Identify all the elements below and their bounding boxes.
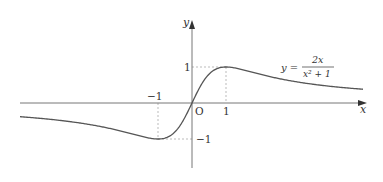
equation-denominator: x² + 1 — [303, 69, 331, 79]
x-axis-label: x — [360, 103, 367, 116]
y-axis-arrow-icon — [189, 20, 195, 29]
y-tick-label-1: 1 — [184, 61, 191, 73]
y-tick-label-neg1: −1 — [196, 133, 211, 145]
equation-label: y = 2x x² + 1 — [280, 54, 334, 79]
x-tick-label-neg1: −1 — [147, 90, 162, 102]
x-tick-label-1: 1 — [223, 105, 230, 117]
function-graph: y x O −1 1 1 −1 y = 2x x² + 1 — [0, 0, 383, 182]
origin-label: O — [195, 105, 204, 117]
y-axis-label: y — [182, 16, 190, 29]
equation-lhs: y = — [280, 62, 298, 73]
equation-numerator: 2x — [311, 54, 324, 65]
